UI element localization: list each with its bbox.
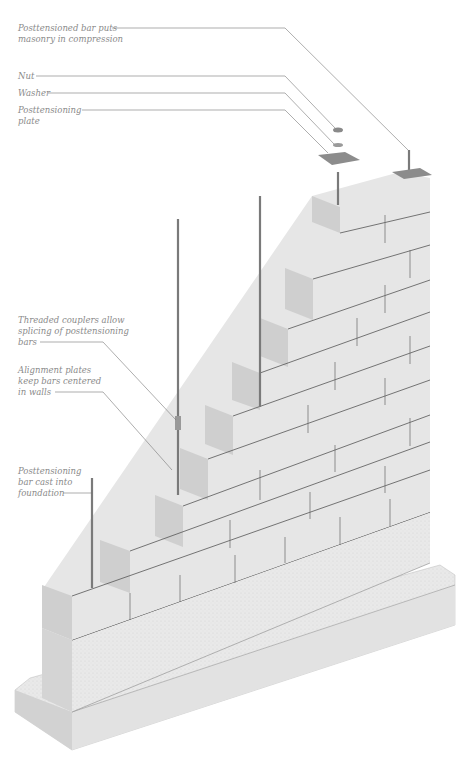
threaded-coupler [175,416,181,430]
callout-plate: Posttensioning plate [18,105,82,127]
callout-foundation-bar: Posttensioning bar cast into foundation [18,466,82,499]
callout-washer: Washer [18,88,50,99]
callout-nut: Nut [18,71,34,82]
callout-bar-compression: Posttensioned bar puts masonry in compre… [18,23,123,45]
callout-alignment-plates: Alignment plates keep bars centered in w… [18,365,101,398]
hardware-exploded [318,128,432,180]
callout-couplers: Threaded couplers allow splicing of post… [18,315,129,348]
